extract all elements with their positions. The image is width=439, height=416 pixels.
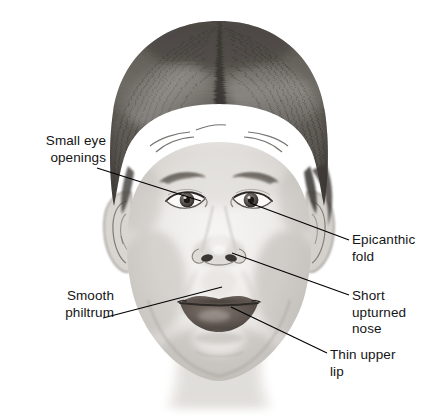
callout-short-upturned-nose: Short upturned nose: [352, 288, 438, 338]
callout-epicanthic-fold: Epicanthic fold: [352, 232, 438, 265]
callout-small-eye-openings: Small eye openings: [14, 133, 106, 166]
callout-thin-upper-lip: Thin upper lip: [330, 347, 435, 380]
philtrum: [202, 268, 236, 296]
callout-smooth-philtrum: Smooth philtrum: [8, 288, 114, 321]
facial-features-figure: Small eye openings Smooth philtrum Epica…: [0, 0, 439, 416]
